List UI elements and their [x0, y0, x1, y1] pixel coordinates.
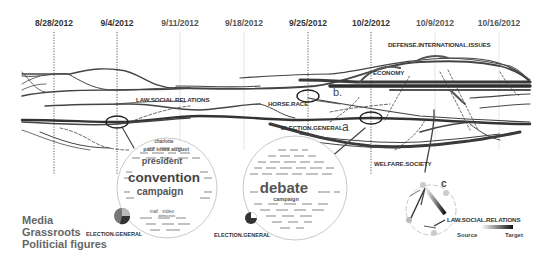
- date-label-10-9: 10/9/2012: [416, 18, 454, 28]
- wordcloud-b-main: debate: [260, 179, 308, 196]
- topic-flow-figure: 8/28/2012 9/4/2012 9/11/2012 9/18/2012 9…: [0, 0, 544, 261]
- wordcloud-a-second: campaign: [137, 186, 184, 197]
- date-label-9-18: 9/18/2012: [225, 18, 263, 28]
- source-target-gradient: [481, 225, 513, 229]
- annotation-c: c: [441, 178, 447, 189]
- topic-label-law: LAW.SOCIAL.RELATIONS: [136, 96, 210, 103]
- legend-item-grassroots: Grassroots: [22, 226, 107, 238]
- flow-view-topic-label: LAW.SOCIAL.RELATIONS: [447, 216, 521, 223]
- topic-label-welfare: WELFARE.SOCIETY: [374, 160, 432, 167]
- wordcloud-a-word: august: [171, 146, 189, 152]
- legend-item-political-figures: Politicial figures: [22, 238, 107, 250]
- annotation-b: b.: [333, 86, 342, 98]
- legend-item-media: Media: [22, 214, 107, 226]
- wordcloud-b-second: campaign: [273, 196, 299, 202]
- date-label-10-16: 10/16/2012: [478, 18, 521, 28]
- pie-chart-b: [245, 212, 257, 224]
- wordcloud-a-main: convention: [128, 170, 200, 185]
- wordcloud-a-word: iowa: [156, 146, 169, 152]
- gradient-target-label: Target: [505, 232, 523, 238]
- source-legend: Media Grassroots Politicial figures: [22, 214, 107, 250]
- wordcloud-a-word: charlotte: [154, 139, 173, 144]
- topic-label-economy: ECONOMY: [373, 69, 404, 76]
- date-label-10-2: 10/2/2012: [352, 18, 390, 28]
- wordcloud-a-word: mail: [150, 209, 158, 214]
- gradient-source-label: Source: [457, 232, 477, 238]
- date-label-9-11: 9/11/2012: [161, 18, 198, 28]
- topic-label-defense: DEFENSE.INTERNATIONAL.ISSUES: [388, 41, 491, 48]
- wordcloud-a-third: president: [142, 156, 183, 166]
- wordcloud-a-word: democratic: [158, 214, 175, 218]
- date-label-9-4: 9/4/2012: [100, 18, 133, 28]
- annotation-a: a: [342, 120, 349, 134]
- flow-view-c: [406, 182, 456, 236]
- pie-chart-a: [114, 208, 130, 224]
- date-label-8-28: 8/28/2012: [35, 18, 73, 28]
- date-label-9-25: 9/25/2012: [289, 18, 327, 28]
- topic-label-election: ELECTION.GENERAL: [281, 124, 343, 131]
- wordcloud-b-topic-label: ELECTION.GENERAL: [214, 232, 270, 238]
- wordcloud-a-word: paul: [143, 146, 154, 152]
- topic-label-horse-race: HORSE.RACE: [268, 100, 308, 107]
